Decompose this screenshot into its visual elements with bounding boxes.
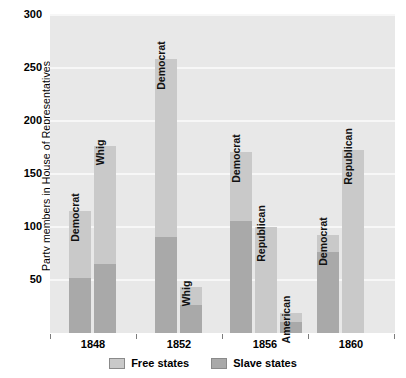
segment-slave-states <box>69 278 91 333</box>
gridline-300 <box>50 14 395 16</box>
legend-label-free-states: Free states <box>131 357 189 369</box>
segment-slave-states <box>155 237 177 333</box>
y-tick-300: 300 <box>24 9 42 20</box>
x-tick-mark-1 <box>136 334 137 339</box>
plot-area: Democrat Whig Democrat Whig Democrat <box>50 14 395 333</box>
x-tick-mark-2 <box>222 334 223 339</box>
bar-1860-democrat: Democrat <box>317 235 339 333</box>
x-tick-label-1848: 1848 <box>81 338 105 350</box>
y-tick-150: 150 <box>24 168 42 179</box>
bar-1852-democrat: Democrat <box>155 59 177 333</box>
bar-1848-whig: Whig <box>94 146 116 333</box>
y-tick-100: 100 <box>24 221 42 232</box>
bar-label-1848-whig: Whig <box>95 140 106 166</box>
bar-1856-republican: Republican <box>255 227 277 333</box>
segment-slave-states <box>180 305 202 333</box>
x-tick-mark-end <box>394 334 395 339</box>
bar-label-1860-democrat: Democrat <box>318 217 329 265</box>
chart-legend: Free states Slave states <box>0 357 406 369</box>
x-tick-mark-3 <box>308 334 309 339</box>
gridline-200 <box>50 120 395 122</box>
x-tick-mark-start <box>50 334 51 339</box>
bar-label-1848-democrat: Democrat <box>70 193 81 241</box>
x-tick-label-1856: 1856 <box>253 338 277 350</box>
chart-figure: Party members in House of Representative… <box>0 0 406 378</box>
bar-1856-american: American <box>280 313 302 333</box>
segment-slave-states <box>94 264 116 333</box>
y-axis-tick-labels: 300 250 200 150 100 50 <box>0 0 46 378</box>
y-tick-250: 250 <box>24 62 42 73</box>
bar-label-1856-american: American <box>281 296 292 344</box>
bar-1852-whig: Whig <box>180 287 202 333</box>
legend-label-slave-states: Slave states <box>233 357 297 369</box>
y-tick-200: 200 <box>24 115 42 126</box>
bar-1848-democrat: Democrat <box>69 211 91 333</box>
x-tick-label-1852: 1852 <box>167 338 191 350</box>
bar-label-1852-democrat: Democrat <box>156 41 167 89</box>
bar-label-1852-whig: Whig <box>181 281 192 307</box>
bar-label-1860-republican: Republican <box>343 128 354 185</box>
bar-1860-republican: Republican <box>342 150 364 333</box>
legend-item-free-states: Free states <box>109 357 189 369</box>
x-tick-label-1860: 1860 <box>339 338 363 350</box>
bar-label-1856-republican: Republican <box>256 205 267 262</box>
segment-slave-states <box>230 221 252 333</box>
y-tick-50: 50 <box>30 274 42 285</box>
legend-swatch-free-states <box>109 358 125 369</box>
gridline-250 <box>50 67 395 69</box>
legend-swatch-slave-states <box>211 358 227 369</box>
legend-item-slave-states: Slave states <box>211 357 297 369</box>
bar-label-1856-democrat: Democrat <box>231 134 242 182</box>
bar-1856-democrat: Democrat <box>230 152 252 333</box>
